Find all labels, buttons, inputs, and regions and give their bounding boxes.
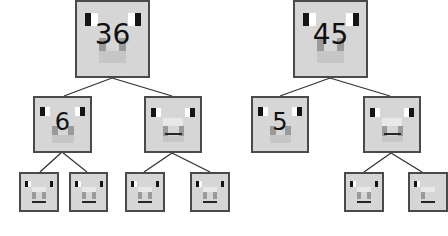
pig-face-icon (71, 174, 106, 210)
pig-face-icon (192, 174, 228, 210)
tree1-leaf-node (69, 172, 108, 212)
tree2-leaf-node (408, 172, 448, 212)
tree1-leaf-node (190, 172, 230, 212)
tree2-root-node: 45 (293, 0, 368, 78)
pig-face-icon (410, 174, 446, 210)
pig-face-icon (127, 174, 163, 210)
pig-face-icon (21, 174, 57, 210)
pig-face-icon (365, 98, 419, 151)
pig-face-icon (146, 98, 200, 151)
node-value: 36 (77, 18, 148, 51)
node-value: 5 (253, 108, 307, 136)
tree1-leaf-node (19, 172, 59, 212)
tree2-child-right-node (363, 96, 421, 153)
node-value: 6 (35, 108, 90, 136)
tree1-leaf-node (125, 172, 165, 212)
tree1-child-left-node: 6 (33, 96, 92, 153)
tree2-leaf-node (344, 172, 384, 212)
tree1-child-right-node (144, 96, 202, 153)
tree1-root-node: 36 (75, 0, 150, 78)
pig-face-icon (346, 174, 382, 210)
node-value: 45 (295, 18, 366, 51)
tree2-child-left-node: 5 (251, 96, 309, 153)
